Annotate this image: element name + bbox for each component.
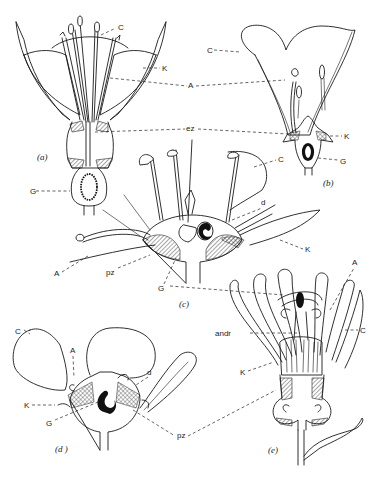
corolla-lobes-e (230, 269, 354, 365)
label-a-K: K (162, 64, 168, 73)
caption-d: (d ) (55, 444, 68, 454)
label-pz-shared: pz (177, 431, 185, 440)
label-e-K: K (240, 368, 246, 377)
label-c-pz: pz (106, 268, 114, 277)
label-c-C: C (278, 155, 284, 164)
label-c-G: G (158, 284, 164, 293)
label-e-C: C (360, 326, 366, 335)
label-d-C: C (15, 327, 21, 336)
caption-e: (e) (268, 445, 278, 455)
ovule-b (304, 145, 313, 160)
caption-c: (c) (179, 299, 189, 309)
label-c-d: d (261, 198, 265, 207)
panel-a: C K G (a) (16, 16, 168, 215)
label-d-G: G (46, 419, 52, 428)
label-b-K: K (344, 132, 350, 141)
label-a-G: G (30, 187, 36, 196)
label-d-A: A (70, 346, 76, 355)
caption-a: (a) (37, 152, 48, 162)
ovule-chamber-a (81, 174, 97, 200)
label-b-C: C (207, 46, 213, 55)
sepal-left (16, 22, 70, 120)
petal-d-left (13, 329, 67, 390)
panel-e: A C andr K (e) (215, 258, 366, 465)
panel-d: C A d K G (d ) (13, 327, 196, 454)
label-A-shared: A (188, 81, 194, 90)
label-b-G: G (340, 157, 346, 166)
caption-b: (b) (323, 178, 334, 188)
label-d-d: d (147, 368, 151, 377)
label-e-andr: andr (215, 329, 231, 338)
panel-c: C d K A pz G (c) (54, 140, 320, 309)
flower-morphology-figure: C K G (a) A ez C K G (b) (0, 0, 380, 477)
leader-A-shared (110, 78, 285, 86)
label-c-A: A (54, 269, 60, 278)
sepal-c (240, 210, 320, 245)
label-c-K: K (305, 245, 311, 254)
label-ez-shared: ez (186, 124, 194, 133)
ovule-e (296, 292, 304, 308)
petal-d-center (87, 328, 156, 378)
label-e-A: A (352, 258, 358, 267)
leader-pz-shared (133, 390, 276, 436)
label-a-C: C (118, 23, 124, 32)
label-d-K: K (24, 401, 30, 410)
corolla-b (241, 25, 355, 135)
